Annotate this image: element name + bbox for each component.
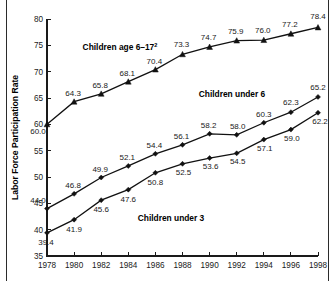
data-point-label: 60.0	[30, 127, 46, 136]
y-tick-label: 50	[34, 173, 44, 182]
data-point-label: 70.4	[147, 57, 163, 66]
data-point-marker	[234, 151, 239, 156]
data-point-label: 52.1	[120, 153, 136, 162]
data-point-label: 54.5	[230, 157, 246, 166]
data-point-marker	[207, 156, 212, 161]
data-point-marker	[261, 120, 266, 125]
data-point-label: 60.3	[256, 110, 272, 119]
data-point-label: 52.5	[176, 168, 192, 177]
y-tick-label: 75	[34, 41, 44, 50]
x-tick-label: 1988	[173, 261, 192, 270]
x-tick-label: 1990	[200, 261, 219, 270]
x-tick-label: 1992	[228, 261, 247, 270]
data-point-label: 64.3	[65, 89, 81, 98]
data-point-marker	[207, 131, 212, 136]
series-line	[47, 97, 318, 209]
x-tick-label: 1998	[309, 261, 328, 270]
data-point-marker	[288, 110, 293, 115]
y-tick-label: 35	[34, 252, 44, 261]
chart-series	[44, 25, 321, 236]
data-point-label: 78.4	[310, 12, 326, 21]
series-label-2: Children under 6	[199, 89, 266, 99]
data-point-marker	[126, 163, 131, 168]
y-tick-label: 40	[34, 226, 44, 235]
data-point-marker	[45, 230, 50, 235]
data-point-label: 41.9	[66, 225, 82, 234]
data-point-marker	[180, 142, 185, 147]
data-point-label: 75.9	[228, 27, 244, 36]
data-point-label: 58.2	[201, 121, 217, 130]
data-point-marker	[234, 132, 239, 137]
data-point-label: 76.0	[255, 26, 271, 35]
y-tick-label: 55	[34, 147, 44, 156]
data-point-marker	[315, 25, 321, 30]
footnote-marker: 2	[154, 42, 157, 48]
y-tick-label: 65	[34, 94, 44, 103]
x-axis-ticks: 1978198019821984198619881990199219941996…	[38, 252, 328, 270]
data-point-label: 77.2	[282, 20, 298, 29]
data-point-label: 74.7	[201, 33, 217, 42]
y-axis-ticks: 35404550556065707580	[34, 15, 51, 261]
data-point-label: 62.3	[283, 98, 299, 107]
data-point-label: 39.4	[38, 238, 54, 247]
data-point-marker	[180, 161, 185, 166]
data-point-label: 50.8	[148, 178, 164, 187]
data-point-label: 45.6	[93, 205, 109, 214]
series-label-text: Children under 6	[199, 89, 266, 99]
data-point-label: 54.4	[147, 141, 163, 150]
y-tick-label: 70	[34, 68, 44, 77]
series-label-text: Children age 6–17	[83, 42, 155, 52]
chart-figure: 35404550556065707580 1978198019821984198…	[0, 0, 335, 281]
data-point-labels: 60.064.365.868.170.473.374.775.976.077.2…	[30, 12, 328, 246]
data-point-label: 58.0	[230, 122, 246, 131]
y-axis-title-text: Labor Force Participation Rate	[10, 75, 20, 200]
data-point-label: 57.1	[257, 144, 273, 153]
data-point-label: 62.2	[312, 117, 328, 126]
x-tick-label: 1982	[92, 261, 111, 270]
data-point-label: 73.3	[174, 40, 190, 49]
data-point-marker	[316, 94, 321, 99]
data-point-label: 59.0	[284, 134, 300, 143]
x-tick-label: 1980	[65, 261, 84, 270]
series-label-1: Children age 6–172	[83, 42, 158, 52]
x-tick-label: 1984	[119, 261, 138, 270]
data-point-marker	[153, 151, 158, 156]
x-tick-label: 1996	[282, 261, 301, 270]
data-point-label: 65.2	[310, 83, 326, 92]
series-label-text: Children under 3	[138, 213, 205, 223]
line-chart: 35404550556065707580 1978198019821984198…	[0, 0, 335, 281]
data-point-label: 47.6	[121, 195, 137, 204]
data-point-label: 56.1	[174, 132, 190, 141]
x-tick-label: 1994	[255, 261, 274, 270]
y-tick-label: 80	[34, 15, 44, 24]
series-label-3: Children under 3	[138, 213, 205, 223]
data-point-label: 53.6	[203, 162, 219, 171]
x-tick-label: 1986	[146, 261, 165, 270]
y-axis-title: Labor Force Participation Rate	[10, 75, 20, 200]
data-point-marker	[153, 67, 159, 72]
data-point-label: 49.9	[92, 165, 108, 174]
data-point-label: 65.8	[92, 81, 108, 90]
data-point-marker	[261, 137, 266, 142]
data-point-label: 68.1	[120, 69, 136, 78]
data-point-marker	[45, 206, 50, 211]
data-point-label: 44.0	[30, 196, 46, 205]
x-tick-label: 1978	[38, 261, 57, 270]
data-point-label: 46.8	[65, 181, 81, 190]
